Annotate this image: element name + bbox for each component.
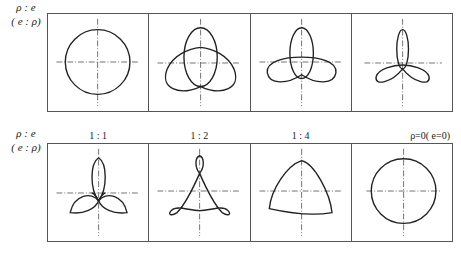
panel-title-1-2: 1 : 2 [149,130,249,142]
row1-label: ρ : e ( e : ρ) [6,0,46,28]
trefoil-wide-curve-icon [149,14,249,111]
row1-panel-circle [48,14,149,111]
trefoil-medium-curve-icon [251,14,351,111]
circle-curve-icon [352,144,452,241]
row2-panel-zero: ρ=0( e=0) [352,144,452,241]
row1-label-inverse: ( e : ρ) [6,14,46,28]
panel-title-1-4: 1 : 4 [251,130,351,142]
panel-title-1-1: 1 : 1 [48,130,148,142]
row2-panel-ratio-1-4: 1 : 4 [251,144,352,241]
row2-label-inverse: ( e : ρ) [6,140,46,154]
row2-figure: 1 : 1 1 : 2 1 : 4 [47,143,453,242]
row2-label: ρ : e ( e : ρ) [6,126,46,154]
row1-figure [47,13,453,112]
row2-panel-ratio-1-2: 1 : 2 [149,144,250,241]
trefoil-petals-curve-icon [48,144,148,241]
circle-curve-icon [48,14,148,111]
row2-panel-ratio-1-1: 1 : 1 [48,144,149,241]
row1-label-ratio: ρ : e [6,0,46,14]
row1-panel-trefoil-wide [149,14,250,111]
row2-label-ratio: ρ : e [6,126,46,140]
panel-title-zero: ρ=0( e=0) [352,130,452,142]
curved-triangle-curve-icon [251,144,351,241]
row1-panel-trefoil-medium [251,14,352,111]
trefoil-narrow-curve-icon [352,14,452,111]
deltoid-loops-curve-icon [149,144,249,241]
row1-panel-trefoil-narrow [352,14,452,111]
